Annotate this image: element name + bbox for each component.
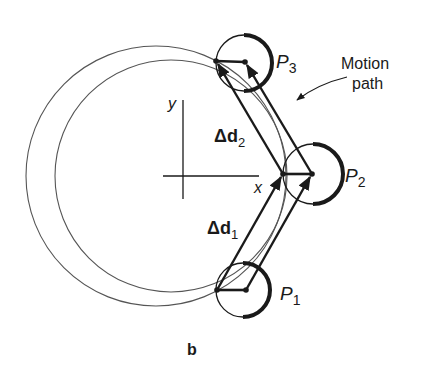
motion-path-label-line1: Motion [341, 55, 389, 72]
body-p1 [214, 263, 270, 317]
label-d1: Δd1 [207, 218, 238, 242]
body-p3 [213, 35, 272, 91]
y-axis-label: y [167, 95, 177, 112]
motion-path-pointer-arrow [297, 77, 347, 100]
label-p1: P1 [280, 283, 301, 308]
motion-path-diagram: y x Δd2 Δd1 P3 P2 P1 Motion path b [0, 0, 427, 381]
label-p2: P2 [345, 165, 366, 190]
motion-path-label-line2: path [352, 75, 383, 92]
label-d2: Δd2 [214, 126, 245, 150]
x-axis-label: x [253, 179, 263, 196]
label-p3: P3 [276, 51, 297, 76]
panel-label: b [187, 341, 197, 358]
